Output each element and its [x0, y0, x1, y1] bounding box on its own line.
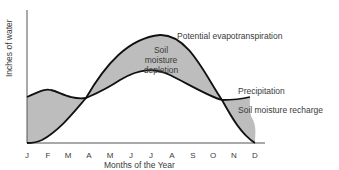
y-axis-label: Inches of water: [4, 19, 14, 77]
tick-nov: N: [231, 151, 237, 160]
tick-jan: J: [25, 151, 29, 160]
tick-feb: F: [46, 151, 51, 160]
pet-label: Potential evapotranspiration: [177, 32, 282, 41]
tick-jul: J: [149, 151, 153, 160]
tick-dec: D: [252, 151, 258, 160]
tick-oct: O: [210, 151, 216, 160]
precipitation-label: Precipitation: [238, 87, 285, 96]
depletion-label-2: moisture: [140, 56, 182, 65]
tick-jun: J: [129, 151, 133, 160]
x-axis-label: Months of the Year: [104, 160, 175, 170]
tick-may: M: [107, 151, 114, 160]
water-budget-chart: [0, 0, 339, 170]
tick-aug: A: [169, 151, 174, 160]
soil-moisture-recharge-area: [222, 97, 255, 143]
depletion-label-1: Soil: [140, 46, 182, 55]
tick-sep: S: [190, 151, 195, 160]
depletion-label-3: depletion: [140, 66, 182, 75]
tick-apr: A: [86, 151, 91, 160]
recharge-label: Soil moisture recharge: [238, 106, 323, 115]
tick-mar: M: [65, 151, 72, 160]
